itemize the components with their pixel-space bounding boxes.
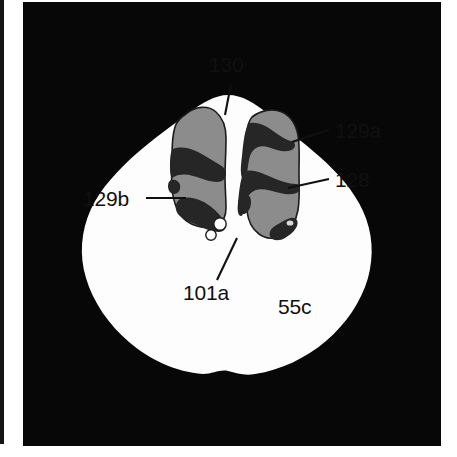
- void-highlight-right: [287, 220, 294, 225]
- label-129a: 129a: [335, 119, 381, 142]
- figure-root: 130 129a 128 129b 101a 55c: [0, 0, 457, 457]
- void-circle-lower: [206, 230, 216, 240]
- page-margin-bar: [0, 0, 4, 444]
- label-130: 130: [209, 53, 243, 76]
- label-55c: 55c: [278, 295, 311, 318]
- scan-illustration: 130 129a 128 129b 101a 55c: [23, 2, 441, 446]
- label-129b: 129b: [83, 187, 129, 210]
- label-128: 128: [335, 168, 369, 191]
- void-circle-upper: [214, 218, 226, 230]
- scan-image-frame: 130 129a 128 129b 101a 55c: [23, 2, 441, 446]
- label-101a: 101a: [183, 281, 229, 304]
